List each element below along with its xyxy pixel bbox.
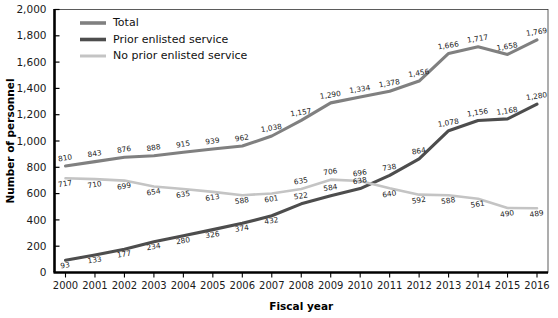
data-point-label: 588 xyxy=(234,195,250,206)
x-tick-label: 2010 xyxy=(347,280,372,291)
data-point-label: 1,156 xyxy=(467,106,490,118)
x-tick-label: 2009 xyxy=(318,280,343,291)
data-point-label: 635 xyxy=(293,175,309,186)
x-tick-label: 2006 xyxy=(230,280,255,291)
x-tick-label: 2008 xyxy=(289,280,314,291)
data-point-label: 654 xyxy=(146,186,162,197)
data-point-label: 1,280 xyxy=(525,90,548,102)
data-point-label: 177 xyxy=(116,249,132,260)
x-tick-label: 2002 xyxy=(112,280,137,291)
data-point-label: 588 xyxy=(441,195,457,206)
data-point-label: 843 xyxy=(87,148,103,159)
data-point-label: 717 xyxy=(57,178,73,189)
y-tick-label: 200 xyxy=(26,240,46,252)
data-point-label: 1,290 xyxy=(319,89,342,101)
data-point-label: 234 xyxy=(146,241,162,252)
chart-container: 02004006008001,0001,2001,4001,6001,8002,… xyxy=(0,0,558,318)
data-point-label: 584 xyxy=(323,182,339,193)
chart-legend: TotalPrior enlisted serviceNo prior enli… xyxy=(80,16,248,62)
y-tick-label: 1,400 xyxy=(16,82,46,94)
x-tick-label: 2013 xyxy=(436,280,461,291)
data-point-label: 699 xyxy=(116,181,132,192)
data-point-label: 601 xyxy=(264,193,280,204)
y-axis: 02004006008001,0001,2001,4001,6001,8002,… xyxy=(16,3,59,278)
data-point-label: 1,334 xyxy=(349,83,372,95)
data-point-label: 888 xyxy=(146,142,162,153)
legend-label-2: No prior enlisted service xyxy=(113,49,248,62)
data-point-label: 640 xyxy=(382,188,398,199)
y-tick-label: 0 xyxy=(40,266,47,278)
legend-label-0: Total xyxy=(112,16,139,29)
data-point-label: 876 xyxy=(116,144,132,155)
line-chart: 02004006008001,0001,2001,4001,6001,8002,… xyxy=(0,0,558,318)
x-tick-label: 2007 xyxy=(259,280,284,291)
x-axis-title: Fiscal year xyxy=(269,300,334,312)
y-tick-label: 800 xyxy=(26,161,46,173)
x-tick-label: 2005 xyxy=(200,280,225,291)
data-point-label: 93 xyxy=(60,260,71,270)
legend-label-1: Prior enlisted service xyxy=(113,33,229,46)
x-tick-label: 2011 xyxy=(377,280,402,291)
x-tick-label: 2003 xyxy=(141,280,166,291)
data-point-label: 613 xyxy=(205,192,221,203)
x-tick-label: 2016 xyxy=(524,280,549,291)
data-point-label: 374 xyxy=(234,223,250,234)
x-tick-label: 2001 xyxy=(82,280,107,291)
x-tick-label: 2004 xyxy=(171,280,196,291)
data-point-label: 522 xyxy=(293,190,308,201)
data-point-label: 561 xyxy=(470,199,486,210)
data-point-label: 432 xyxy=(264,215,279,226)
data-point-label: 592 xyxy=(411,195,426,206)
y-tick-label: 1,600 xyxy=(16,56,46,68)
data-point-label: 133 xyxy=(87,254,103,265)
data-point-label: 706 xyxy=(323,166,339,177)
y-tick-label: 1,800 xyxy=(16,29,46,41)
data-point-label: 1,717 xyxy=(467,33,490,45)
data-point-label: 915 xyxy=(175,139,191,150)
data-point-label: 1,666 xyxy=(437,39,460,51)
y-tick-label: 2,000 xyxy=(16,3,46,15)
data-point-label: 280 xyxy=(175,235,191,246)
series-lines xyxy=(66,40,538,260)
y-tick-label: 400 xyxy=(26,214,46,226)
x-tick-label: 2000 xyxy=(53,280,78,291)
y-tick-label: 600 xyxy=(26,187,46,199)
x-tick-label: 2014 xyxy=(465,280,490,291)
data-point-label: 1,769 xyxy=(525,26,548,38)
data-labels: 8108438768889159399621,0381,1571,2901,33… xyxy=(57,26,548,271)
x-axis: 2000200120022003200420052006200720082009… xyxy=(53,273,550,292)
x-tick-label: 2015 xyxy=(495,280,520,291)
data-point-label: 962 xyxy=(234,132,249,143)
data-point-label: 326 xyxy=(205,229,221,240)
y-tick-label: 1,000 xyxy=(16,135,46,147)
x-tick-label: 2012 xyxy=(406,280,431,291)
data-point-label: 635 xyxy=(175,189,191,200)
y-axis-title: Number of personnel xyxy=(4,78,16,203)
data-point-label: 939 xyxy=(205,135,221,146)
y-tick-label: 1,200 xyxy=(16,108,46,120)
data-point-label: 710 xyxy=(87,179,103,190)
data-point-label: 490 xyxy=(499,208,515,219)
data-point-label: 489 xyxy=(529,208,545,219)
data-point-label: 810 xyxy=(57,152,73,163)
data-point-label: 1,456 xyxy=(408,67,431,79)
